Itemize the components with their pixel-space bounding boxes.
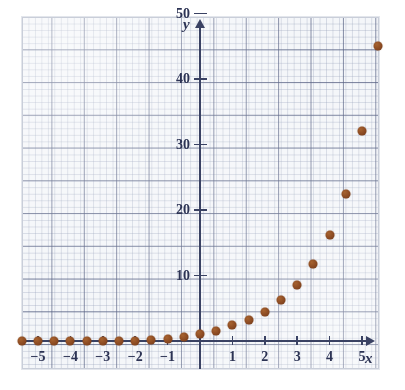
- data-point: [325, 230, 334, 239]
- x-tick: [232, 336, 234, 345]
- data-point: [196, 330, 205, 339]
- data-point: [147, 336, 156, 345]
- data-point: [179, 333, 188, 342]
- data-point: [115, 337, 124, 346]
- x-tick-label: 5: [359, 350, 366, 364]
- x-tick-label: −4: [63, 350, 78, 364]
- data-point: [293, 280, 302, 289]
- x-tick-label: −5: [31, 350, 46, 364]
- y-tick: [194, 209, 207, 211]
- x-tick: [361, 336, 363, 345]
- y-tick-label: 20: [162, 203, 190, 217]
- data-point: [163, 335, 172, 344]
- x-tick: [296, 336, 298, 345]
- x-tick-label: −2: [128, 350, 143, 364]
- data-point: [50, 337, 59, 346]
- x-tick: [264, 336, 266, 345]
- y-tick: [194, 275, 207, 277]
- data-point: [277, 295, 286, 304]
- data-point: [131, 337, 140, 346]
- data-point: [98, 337, 107, 346]
- data-point: [309, 259, 318, 268]
- data-point: [341, 189, 350, 198]
- data-point: [244, 316, 253, 325]
- data-point: [212, 326, 221, 335]
- y-axis-arrow-icon: [195, 19, 205, 28]
- y-tick-label: 10: [162, 269, 190, 283]
- x-tick-label: 2: [261, 350, 268, 364]
- y-tick: [194, 13, 207, 15]
- data-point: [358, 127, 367, 136]
- data-point: [34, 337, 43, 346]
- y-tick: [194, 78, 207, 80]
- x-tick-label: 3: [294, 350, 301, 364]
- data-point: [82, 337, 91, 346]
- x-tick: [329, 336, 331, 345]
- x-tick-label: −3: [95, 350, 110, 364]
- x-tick-label: 1: [229, 350, 236, 364]
- y-tick-label: 50: [162, 7, 190, 21]
- x-tick-label: −1: [160, 350, 175, 364]
- data-point: [260, 307, 269, 316]
- graph-paper-panel: x y −5−4−3−2−112345 1020304050: [22, 17, 379, 369]
- x-tick-label: 4: [326, 350, 333, 364]
- data-point: [374, 42, 383, 51]
- x-axis-label: x: [365, 351, 373, 366]
- data-point: [66, 337, 75, 346]
- y-tick: [194, 144, 207, 146]
- scatter-plot-figure: x y −5−4−3−2−112345 1020304050: [0, 0, 405, 390]
- data-point: [17, 337, 26, 346]
- y-tick-label: 30: [162, 138, 190, 152]
- x-axis-arrow-icon: [366, 336, 375, 346]
- y-tick-label: 40: [162, 72, 190, 86]
- data-point: [228, 321, 237, 330]
